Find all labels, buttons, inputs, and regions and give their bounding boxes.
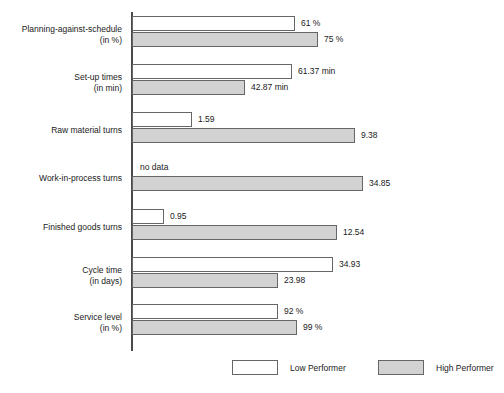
legend-swatch-icon (232, 360, 278, 375)
bar-value-label: 1.59 (198, 113, 215, 126)
bar-low-performer[interactable] (132, 209, 164, 224)
category-label: Service level (in %) (0, 312, 122, 333)
bar-high-performer[interactable] (132, 32, 318, 47)
bar-high-performer[interactable] (132, 273, 278, 288)
bar-low-performer[interactable] (132, 112, 192, 127)
bar-value-label: 34.93 (339, 258, 360, 271)
bar-chart: Planning-against-schedule (in %) 61 % 75… (0, 0, 504, 393)
bar-high-performer[interactable] (132, 80, 245, 95)
category-label: Raw material turns (0, 125, 122, 136)
bar-value-label: 61 % (301, 17, 320, 30)
category-label: Set-up times (in min) (0, 72, 122, 93)
category-label: Planning-against-schedule (in %) (0, 24, 122, 45)
category-label: Work-in-process turns (0, 173, 122, 184)
bar-low-performer[interactable] (132, 304, 278, 319)
bar-low-performer[interactable] (132, 64, 292, 79)
bar-value-label: 34.85 (369, 177, 390, 190)
bar-high-performer[interactable] (132, 320, 297, 335)
category-label: Cycle time (in days) (0, 265, 122, 286)
bar-high-performer[interactable] (132, 225, 337, 240)
bar-high-performer[interactable] (132, 128, 355, 143)
bar-value-label: 12.54 (343, 226, 364, 239)
no-data-annotation: no data (140, 161, 168, 174)
bar-value-label: 0.95 (170, 210, 187, 223)
legend-item-label: High Performer (436, 363, 494, 373)
legend-item-low-performer[interactable]: Low Performer (232, 360, 346, 375)
bar-low-performer[interactable] (132, 16, 295, 31)
legend-item-label: Low Performer (290, 363, 346, 373)
chart-legend: Low Performer High Performer (232, 360, 504, 384)
bar-high-performer[interactable] (132, 176, 363, 191)
bar-value-label: 23.98 (284, 274, 305, 287)
bar-value-label: 92 % (284, 305, 303, 318)
bar-low-performer[interactable] (132, 257, 333, 272)
bar-value-label: 75 % (324, 33, 343, 46)
legend-item-high-performer[interactable]: High Performer (378, 360, 494, 375)
bar-value-label: 9.38 (361, 129, 378, 142)
bar-value-label: 61.37 min (298, 65, 335, 78)
bar-value-label: 99 % (303, 321, 322, 334)
legend-swatch-icon (378, 360, 424, 375)
bar-value-label: 42.87 min (251, 81, 288, 94)
category-label: Finished goods turns (0, 222, 122, 233)
